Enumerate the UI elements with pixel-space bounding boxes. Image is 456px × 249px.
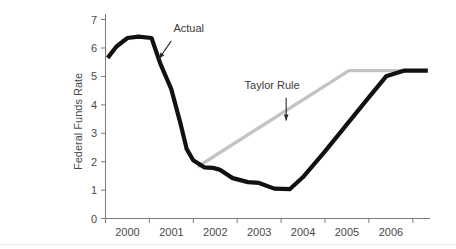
figure-root: r 7 6 5 4 3 2 1 0: [0, 0, 456, 249]
x-tick-label-2000: 2000: [115, 226, 139, 238]
y-axis-ticks: [101, 20, 105, 219]
y-tick-label-6: 6: [91, 42, 97, 54]
federal-funds-rate-line-chart: 7 6 5 4 3 2 1 0 Federal Funds Rate 2000 …: [0, 0, 456, 249]
bottom-divider: [0, 244, 456, 245]
y-tick-label-5: 5: [91, 70, 97, 82]
x-tick-label-2004: 2004: [291, 226, 315, 238]
x-tick-label-2006: 2006: [379, 226, 403, 238]
y-tick-label-2: 2: [91, 156, 97, 168]
x-tick-label-2005: 2005: [335, 226, 359, 238]
y-tick-label-7: 7: [91, 14, 97, 26]
x-tick-label-2001: 2001: [159, 226, 183, 238]
y-tick-label-0: 0: [91, 213, 97, 225]
y-axis-tick-labels: 7 6 5 4 3 2 1 0: [91, 14, 97, 225]
annotation-label-taylor-rule: Taylor Rule: [245, 79, 300, 91]
x-tick-label-2002: 2002: [203, 226, 227, 238]
x-axis-tick-labels: 2000 2001 2002 2003 2004 2005 2006: [115, 226, 403, 238]
x-tick-label-2003: 2003: [247, 226, 271, 238]
y-tick-label-1: 1: [91, 184, 97, 196]
y-axis-title: Federal Funds Rate: [72, 73, 84, 170]
y-tick-label-3: 3: [91, 127, 97, 139]
annotation-label-actual: Actual: [173, 22, 204, 34]
y-tick-label-4: 4: [91, 99, 97, 111]
